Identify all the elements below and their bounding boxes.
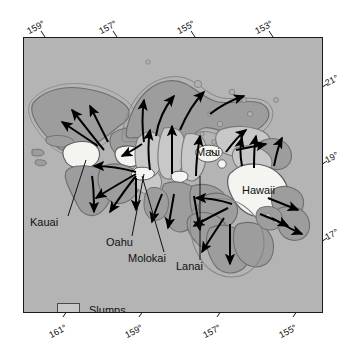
map-svg bbox=[24, 38, 322, 312]
deposit-lanai-sw-avalanche bbox=[144, 187, 169, 220]
map-canvas: Kauai Oahu Molokai Lanai Maui Hawaii Slu… bbox=[23, 37, 323, 313]
island-label-kauai: Kauai bbox=[30, 216, 58, 228]
deposit-kauai-fragment-2 bbox=[32, 149, 44, 156]
legend-label-slumps: Slumps bbox=[89, 304, 126, 314]
block-6 bbox=[217, 121, 222, 126]
block-10 bbox=[146, 60, 150, 64]
block-7 bbox=[200, 132, 204, 136]
island-lanai bbox=[171, 171, 188, 182]
island-label-hawaii: Hawaii bbox=[242, 184, 275, 196]
block-4 bbox=[247, 111, 252, 116]
block-2 bbox=[229, 89, 235, 95]
legend-swatch-slumps bbox=[57, 303, 80, 313]
block-3 bbox=[242, 98, 247, 103]
island-kauai bbox=[63, 142, 99, 169]
island-label-maui: Maui bbox=[196, 146, 220, 158]
block-11 bbox=[274, 98, 279, 103]
island-kahoolawe bbox=[218, 160, 226, 168]
figure-root: 159° 157° 155° 153° 161° 159° 157° 155° … bbox=[0, 0, 354, 346]
legend-item-slumps: Slumps bbox=[57, 303, 180, 313]
legend: Slumps Debris avalanches bbox=[57, 303, 180, 313]
block-1 bbox=[194, 80, 201, 87]
island-label-oahu: Oahu bbox=[106, 236, 133, 248]
deposit-kauai-fragment-3 bbox=[35, 160, 46, 166]
island-label-molokai: Molokai bbox=[128, 252, 166, 264]
island-label-lanai: Lanai bbox=[176, 260, 203, 272]
